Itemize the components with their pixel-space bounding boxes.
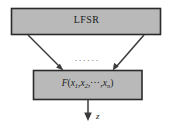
variable-1-subscript: 1 (75, 82, 78, 89)
left-tap-arrow-line (28, 35, 60, 67)
filter-function-label: F(x1,x2,⋯,xn) (33, 79, 142, 89)
variable-2-subscript: 2 (85, 82, 88, 89)
lfsr-filter-generator-diagram: LFSR ······ F(x1,x2,⋯,xn) z (0, 0, 173, 135)
close-paren: ) (110, 78, 113, 88)
right-tap-arrow-head (113, 63, 119, 71)
variable-n-subscript: n (107, 82, 110, 89)
variables-midline-dots: ⋯ (90, 78, 100, 88)
output-arrow-head (84, 113, 92, 122)
tap-ellipsis-label: ······ (70, 56, 104, 65)
lfsr-block-label: LFSR (0, 15, 173, 25)
right-tap-arrow-line (117, 35, 145, 67)
output-keystream-label: z (96, 112, 100, 121)
